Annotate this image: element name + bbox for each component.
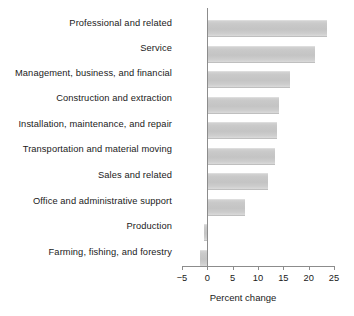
- x-axis-end-cap: [182, 266, 183, 270]
- category-label: Management, business, and financial: [15, 68, 172, 78]
- bar: [207, 46, 315, 63]
- category-label: Transportation and material moving: [23, 144, 172, 154]
- x-axis-tick-label: −5: [177, 273, 188, 283]
- category-label: Professional and related: [69, 18, 172, 28]
- category-label: Office and administrative support: [33, 196, 172, 206]
- x-axis-tick: [283, 266, 284, 270]
- x-axis-tick-labels: −50510152025: [182, 273, 342, 287]
- x-axis-tick-label: 5: [230, 273, 235, 283]
- zero-baseline: [207, 8, 208, 266]
- bar: [207, 20, 327, 37]
- x-axis-tick-label: 20: [303, 273, 313, 283]
- x-axis-tick: [309, 266, 310, 270]
- bar: [207, 97, 278, 114]
- bar: [207, 199, 244, 216]
- x-axis-tick-label: 15: [278, 273, 288, 283]
- bar: [207, 122, 276, 139]
- x-axis-tick-label: 10: [253, 273, 263, 283]
- x-axis-tick: [233, 266, 234, 270]
- category-label: Sales and related: [98, 170, 172, 180]
- category-label: Farming, fishing, and forestry: [49, 247, 172, 257]
- x-axis-tick-label: 25: [329, 273, 339, 283]
- category-label: Service: [140, 43, 172, 53]
- category-label: Installation, maintenance, and repair: [18, 119, 172, 129]
- x-axis-tick: [258, 266, 259, 270]
- category-label: Production: [127, 221, 172, 231]
- category-label: Construction and extraction: [56, 93, 172, 103]
- x-axis-tick: [334, 266, 335, 270]
- bar: [207, 71, 290, 88]
- category-axis-labels: Professional and related Service Managem…: [0, 0, 178, 266]
- bar: [207, 173, 268, 190]
- bar: [200, 250, 208, 267]
- x-axis-tick: [207, 266, 208, 270]
- x-axis-tick-label: 0: [205, 273, 210, 283]
- x-axis-title: Percent change: [182, 292, 304, 303]
- plot-area: [182, 8, 334, 266]
- bar-chart: Professional and related Service Managem…: [0, 0, 354, 316]
- bar: [207, 148, 274, 165]
